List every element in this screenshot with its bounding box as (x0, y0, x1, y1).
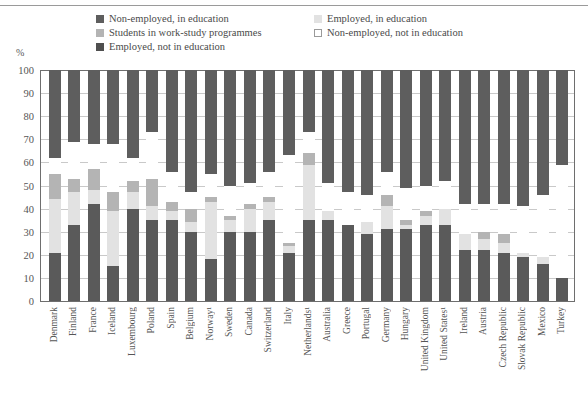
bar-portugal[interactable] (361, 70, 373, 301)
x-tick-label-wrap: Australia (322, 307, 334, 401)
bar-segment (127, 209, 139, 301)
bar-spain[interactable] (166, 70, 178, 301)
bar-australia[interactable] (322, 70, 334, 301)
bar-belgium[interactable] (185, 70, 197, 301)
x-tick-label: Hungary (400, 307, 410, 340)
legend-swatch-non-employed-not-in-education (314, 29, 322, 37)
bar-segment (400, 229, 412, 301)
bar-segment (381, 195, 393, 207)
bar-unitedstates[interactable] (439, 70, 451, 301)
x-tick-label: Poland (146, 307, 156, 333)
bar-segment (68, 70, 80, 142)
x-tick-label: Italy (283, 307, 293, 324)
bar-sweden[interactable] (224, 70, 236, 301)
bar-france[interactable] (88, 70, 100, 301)
y-axis-line (40, 70, 41, 301)
gridline-0 (40, 301, 575, 302)
bar-poland[interactable] (146, 70, 158, 301)
bar-norway[interactable] (205, 70, 217, 301)
bar-finland[interactable] (68, 70, 80, 301)
legend-label-non-employed-in-education: Non-employed, in education (109, 12, 229, 26)
x-tick-label-wrap: Finland (68, 307, 80, 401)
bar-segment (322, 220, 334, 301)
bar-segment (127, 181, 139, 193)
bar-segment (478, 239, 490, 251)
bar-segment (68, 192, 80, 224)
bar-segment (400, 220, 412, 225)
legend-item-employed-in-education: Employed, in education (314, 12, 566, 26)
x-tick-label: Czech Republic (498, 307, 508, 367)
bar-netherlands[interactable] (303, 70, 315, 301)
bar-iceland[interactable] (107, 70, 119, 301)
y-tick-label-90: 90 (4, 88, 34, 99)
x-tick-label: Slovak Republic (517, 307, 527, 370)
x-tick-label: Canada (244, 307, 254, 336)
bar-segment (420, 211, 432, 216)
bar-italy[interactable] (283, 70, 295, 301)
bar-segment (263, 172, 275, 197)
bar-segment (49, 253, 61, 302)
bar-segment (381, 70, 393, 172)
x-tick-label-wrap: Greece (342, 307, 354, 401)
bar-segment (68, 179, 80, 193)
bar-mexico[interactable] (537, 70, 549, 301)
bar-slovakrepublic[interactable] (517, 70, 529, 301)
bar-segment (498, 234, 510, 243)
bar-segment (68, 142, 80, 179)
bar-segment (166, 211, 178, 220)
bar-segment (224, 70, 236, 186)
bar-segment (342, 70, 354, 192)
bar-turkey[interactable] (556, 70, 568, 301)
bar-segment (49, 70, 61, 158)
bar-switzerland[interactable] (263, 70, 275, 301)
y-tick-label-80: 80 (4, 111, 34, 122)
bar-segment (263, 202, 275, 220)
legend-item-employed-not-in-education: Employed, not in education (96, 40, 314, 54)
x-tick-label: Denmark (49, 307, 59, 342)
bar-segment (556, 70, 568, 165)
bar-segment (303, 132, 315, 153)
bar-ireland[interactable] (459, 70, 471, 301)
x-tick-label: Switzerland (263, 307, 273, 352)
bar-hungary[interactable] (400, 70, 412, 301)
bar-segment (420, 216, 432, 225)
bar-segment (322, 211, 334, 220)
x-tick-label-wrap: Poland (146, 307, 158, 401)
y-tick-label-60: 60 (4, 157, 34, 168)
bar-canada[interactable] (244, 70, 256, 301)
bar-segment (361, 195, 373, 223)
x-tick-label: France (88, 307, 98, 333)
bar-germany[interactable] (381, 70, 393, 301)
bar-segment (537, 264, 549, 301)
bar-unitedkingdom[interactable] (420, 70, 432, 301)
x-tick-label: Finland (68, 307, 78, 336)
bar-denmark[interactable] (49, 70, 61, 301)
legend-item-non-employed-in-education: Non-employed, in education (96, 12, 314, 26)
legend-swatch-employed-in-education (314, 15, 322, 23)
bar-greece[interactable] (342, 70, 354, 301)
x-tick-label: Austria (478, 307, 488, 335)
x-tick-label-wrap: Switzerland (263, 307, 275, 401)
y-tick-label-100: 100 (4, 65, 34, 76)
bar-segment (517, 253, 529, 258)
x-tick-label-wrap: Slovak Republic (517, 307, 529, 401)
bar-segment (478, 204, 490, 232)
bar-segment (205, 174, 217, 197)
bar-luxembourg[interactable] (127, 70, 139, 301)
x-tick-label: Luxembourg (127, 307, 137, 356)
bar-austria[interactable] (478, 70, 490, 301)
bar-segment (556, 278, 568, 301)
bar-segment (127, 70, 139, 158)
legend-item-non-employed-not-in-education: Non-employed, not in education (314, 26, 566, 40)
bar-segment (439, 225, 451, 301)
bar-segment (361, 222, 373, 234)
bar-segment (400, 225, 412, 230)
bar-segment (185, 70, 197, 192)
legend-item-work-study: Students in work-study programmes (96, 26, 314, 40)
bar-segment (537, 257, 549, 264)
bar-segment (224, 220, 236, 232)
bar-czechrepublic[interactable] (498, 70, 510, 301)
x-tick-label-wrap: Belgium (185, 307, 197, 401)
bar-segment (224, 232, 236, 301)
bar-segment (88, 190, 100, 204)
